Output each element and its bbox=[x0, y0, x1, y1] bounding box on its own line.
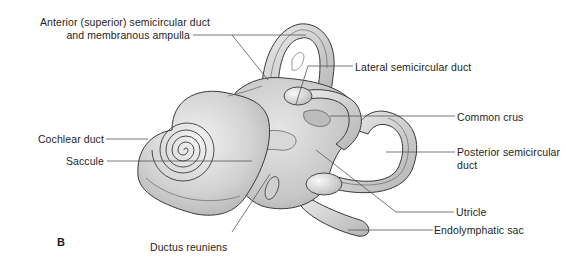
membranous-labyrinth-figure: Anterior (superior) semicircular duct an… bbox=[0, 0, 566, 259]
label-saccule: Saccule bbox=[0, 155, 104, 167]
posterior-ampulla-shape bbox=[306, 173, 342, 195]
label-posterior-line2: duct bbox=[457, 159, 477, 171]
label-ductus-reuniens: Ductus reuniens bbox=[150, 241, 227, 253]
label-endolymphatic-sac: Endolymphatic sac bbox=[434, 224, 524, 236]
label-posterior-line1: Posterior semicircular bbox=[457, 146, 560, 158]
label-anterior-line1: Anterior (superior) semicircular duct bbox=[40, 16, 193, 28]
label-lateral-semicircular-duct: Lateral semicircular duct bbox=[355, 61, 471, 73]
label-cochlear-duct: Cochlear duct bbox=[0, 133, 104, 145]
label-utricle: Utricle bbox=[456, 206, 486, 218]
label-anterior-line2: and membranous ampulla bbox=[40, 29, 190, 41]
label-common-crus: Common crus bbox=[457, 111, 523, 123]
panel-letter: B bbox=[57, 236, 65, 248]
